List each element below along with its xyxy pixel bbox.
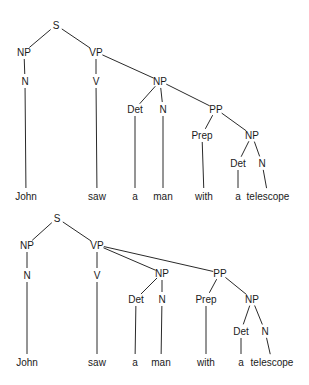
tree-edge bbox=[29, 30, 50, 48]
tree-edge bbox=[140, 86, 156, 104]
node-label-np: NP bbox=[153, 76, 167, 87]
node-label-np: NP bbox=[17, 47, 31, 58]
leaf-word: John bbox=[16, 357, 38, 368]
leaf-word: man bbox=[153, 191, 172, 202]
tree-edge bbox=[222, 113, 247, 131]
tree-edge bbox=[63, 222, 91, 241]
tree-edge bbox=[135, 306, 136, 354]
tree-edge bbox=[254, 142, 259, 157]
leaf-word: a bbox=[238, 357, 244, 368]
node-label-n: N bbox=[158, 294, 165, 305]
leaf-word: with bbox=[196, 357, 215, 368]
node-label-prep: Prep bbox=[195, 294, 217, 305]
tree-edge bbox=[202, 142, 204, 188]
tree-edge bbox=[205, 115, 212, 129]
tree-edge bbox=[161, 88, 163, 102]
node-label-n: N bbox=[159, 104, 166, 115]
tree-edge bbox=[25, 88, 26, 188]
node-label-n: N bbox=[258, 158, 265, 169]
node-label-n: N bbox=[261, 326, 268, 337]
tree-edge bbox=[243, 306, 249, 325]
tree-edge bbox=[24, 59, 25, 74]
tree-edge bbox=[225, 277, 246, 294]
tree-edge bbox=[267, 338, 271, 354]
node-label-vp: VP bbox=[89, 47, 103, 58]
tree-edge bbox=[209, 279, 216, 293]
leaf-word: telescope bbox=[251, 357, 294, 368]
tree-edge bbox=[32, 223, 52, 241]
leaf-word: saw bbox=[88, 191, 107, 202]
tree-edge bbox=[166, 84, 209, 106]
node-label-det: Det bbox=[128, 294, 144, 305]
tree-edge bbox=[161, 306, 162, 354]
node-label-vp: VP bbox=[90, 240, 104, 251]
leaf-word: a bbox=[235, 191, 241, 202]
tree-edge bbox=[62, 29, 90, 48]
node-label-s: S bbox=[54, 213, 61, 224]
node-label-pp: PP bbox=[209, 104, 223, 115]
node-label-det: Det bbox=[233, 326, 249, 337]
tree-edge bbox=[255, 305, 263, 324]
node-label-np: NP bbox=[155, 268, 169, 279]
leaf-word: with bbox=[194, 191, 213, 202]
node-label-np: NP bbox=[20, 240, 34, 251]
parse-tree-diagram: SNPVPNVNPDetNPPPrepNPDetNJohnsawamanwith… bbox=[0, 0, 309, 385]
leaf-word: John bbox=[15, 191, 37, 202]
tree-np-attachment: SNPVPNVNPDetNPPPrepNPDetNJohnsawamanwith… bbox=[15, 20, 290, 202]
node-label-np: NP bbox=[245, 294, 259, 305]
node-label-pp: PP bbox=[213, 268, 227, 279]
tree-vp-attachment: SNPVPNVNPPPDetNPrepNPDetNJohnsawamanwith… bbox=[16, 213, 294, 368]
node-label-det: Det bbox=[230, 158, 246, 169]
tree-edge bbox=[96, 88, 97, 188]
leaf-word: telescope bbox=[247, 191, 290, 202]
node-label-det: Det bbox=[127, 104, 143, 115]
leaf-word: man bbox=[151, 357, 170, 368]
node-label-v: V bbox=[93, 76, 100, 87]
tree-edge bbox=[141, 278, 157, 294]
leaf-word: saw bbox=[88, 357, 107, 368]
node-label-np: NP bbox=[245, 130, 259, 141]
node-label-v: V bbox=[94, 270, 101, 281]
node-label-n: N bbox=[23, 270, 30, 281]
node-label-prep: Prep bbox=[191, 130, 213, 141]
leaf-word: a bbox=[132, 357, 138, 368]
tree-edge bbox=[102, 55, 153, 78]
tree-edge bbox=[103, 248, 155, 270]
tree-edge bbox=[263, 170, 266, 188]
node-label-n: N bbox=[21, 76, 28, 87]
leaf-word: a bbox=[132, 191, 138, 202]
tree-edge bbox=[241, 141, 249, 156]
node-label-s: S bbox=[53, 20, 60, 31]
